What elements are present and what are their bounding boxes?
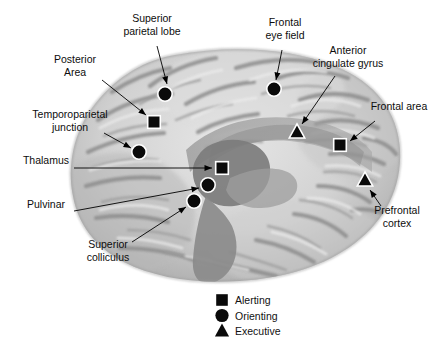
marker-thalamus: [216, 162, 229, 175]
legend-label-orienting: Orienting: [235, 310, 278, 322]
marker-frontal-area: [334, 139, 347, 152]
legend: AlertingOrientingExecutive: [215, 294, 281, 337]
brain-attention-networks-figure: Superiorparietal lobePosteriorAreaTempor…: [0, 0, 436, 355]
label-superior-parietal-lobe: Superiorparietal lobe: [123, 12, 180, 37]
label-anterior-cingulate-gyrus: Anteriorcingulate gyrus: [313, 44, 384, 69]
legend-marker-alerting: [216, 294, 228, 306]
legend-marker-executive: [215, 323, 229, 336]
label-thalamus: Thalamus: [23, 154, 69, 166]
legend-marker-orienting: [215, 309, 228, 322]
label-frontal-eye-field: Frontaleye field: [265, 16, 304, 41]
marker-temporoparietal-junction: [132, 145, 146, 159]
marker-pulvinar: [201, 178, 215, 192]
label-pulvinar: Pulvinar: [27, 198, 65, 210]
marker-superior-colliculus: [187, 194, 201, 208]
marker-superior-parietal-lobe: [158, 87, 172, 101]
legend-label-alerting: Alerting: [235, 294, 271, 306]
marker-posterior-area: [148, 116, 161, 129]
label-frontal-area: Frontal area: [371, 100, 428, 112]
label-posterior-area: PosteriorArea: [54, 53, 97, 78]
marker-frontal-eye-field: [267, 82, 281, 96]
label-superior-colliculus: Superiorcolliculus: [87, 238, 130, 263]
figure-canvas: Superiorparietal lobePosteriorAreaTempor…: [0, 0, 436, 355]
legend-label-executive: Executive: [235, 325, 281, 337]
